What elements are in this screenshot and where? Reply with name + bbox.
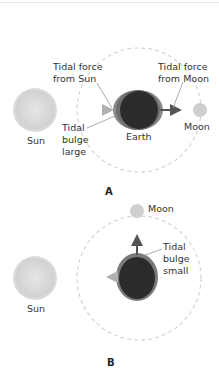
panel-letter-a: A	[105, 186, 113, 197]
tidal-force-sun-label-2: from Sun	[53, 73, 96, 84]
tidal-force-sun-label-1: Tidal force	[53, 61, 103, 72]
sun-label: Sun	[27, 135, 45, 146]
tidal-force-moon-label-2: from Moon	[158, 73, 209, 84]
tidal-bulge-label-1: Tidal	[62, 122, 85, 133]
sun-icon	[13, 88, 57, 132]
earth-label: Earth	[126, 131, 151, 142]
moon-icon	[130, 204, 144, 218]
sun-icon	[13, 256, 57, 300]
tidal-bulge-label-2: bulge	[62, 134, 89, 145]
sun-label: Sun	[27, 303, 45, 314]
moon-icon	[193, 103, 207, 117]
tidal-bulge-label-2: bulge	[163, 253, 190, 264]
panel-letter-b: B	[107, 357, 115, 368]
moon-label: Moon	[184, 121, 210, 132]
tidal-bulge-label-3: large	[62, 146, 86, 157]
tidal-bulge-label-3: small	[163, 265, 188, 276]
moon-label: Moon	[148, 203, 174, 214]
tidal-force-moon-label-1: Tidal force	[158, 61, 208, 72]
earth-icon	[119, 257, 155, 299]
tidal-bulge-label-1: Tidal	[163, 241, 186, 252]
earth-icon	[120, 91, 158, 129]
